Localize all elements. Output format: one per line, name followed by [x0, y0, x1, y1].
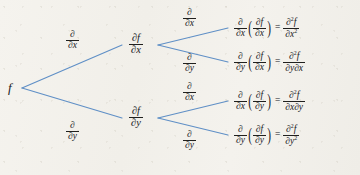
inner-numerator: ∂f [253, 125, 266, 135]
result-denominator: ∂x2 [283, 28, 299, 40]
outer-operator-numerator: ∂ [234, 125, 247, 135]
node-denominator: ∂x [129, 44, 143, 56]
edge-label-numerator: ∂ [183, 82, 196, 92]
result-denominator: ∂y∂x [283, 62, 305, 74]
equals-sign: = [272, 57, 283, 67]
paren-close: ) [267, 54, 271, 71]
paren-close: ) [267, 93, 271, 110]
outer-operator-numerator: ∂ [234, 52, 247, 62]
outer-operator-numerator: ∂ [234, 18, 247, 28]
edge-label-denominator: ∂y [183, 63, 196, 74]
edge-root-to-fx [22, 45, 122, 88]
result-numerator: ∂2f [283, 90, 305, 101]
edge-label-d-dx-branch2: ∂ ∂x [183, 82, 196, 102]
outer-operator-denominator: ∂y [234, 62, 247, 73]
result-denominator: ∂y2 [283, 135, 299, 147]
paren-close: ) [267, 127, 271, 144]
edge-label-numerator: ∂ [183, 53, 196, 63]
paren-open: ( [248, 93, 252, 110]
inner-denominator: ∂y [253, 101, 266, 112]
edge-label-numerator: ∂ [66, 121, 79, 131]
result-expression-fxx: ∂ ∂x ( ∂f ∂x ) = ∂2f ∂x2 [234, 17, 299, 39]
root-node-f: f [8, 81, 12, 94]
root-label: f [8, 80, 12, 95]
result-denominator: ∂x∂y [283, 101, 305, 113]
edge-label-denominator: ∂x [183, 18, 196, 29]
edge-label-numerator: ∂ [66, 30, 79, 40]
diagram-canvas: f ∂ ∂x ∂ ∂y ∂f ∂x ∂f ∂y ∂ ∂x ∂ [0, 0, 360, 175]
paren-open: ( [248, 54, 252, 71]
edge-label-d-dy-level1: ∂ ∂y [66, 121, 79, 141]
edge-label-numerator: ∂ [183, 130, 196, 140]
node-denominator: ∂y [129, 117, 143, 129]
edge-label-denominator: ∂y [66, 131, 79, 142]
result-numerator: ∂2f [283, 17, 299, 28]
edge-label-d-dx-level1: ∂ ∂x [66, 30, 79, 50]
edge-fx-to-fxx [158, 28, 228, 45]
inner-denominator: ∂x [253, 62, 266, 73]
edge-label-d-dy-branch1: ∂ ∂y [183, 53, 196, 73]
node-numerator: ∂f [129, 106, 143, 117]
node-df-dy: ∂f ∂y [129, 106, 143, 128]
outer-operator-denominator: ∂y [234, 135, 247, 146]
equals-sign: = [272, 23, 283, 33]
paren-open: ( [248, 127, 252, 144]
result-numerator: ∂2f [283, 124, 299, 135]
paren-close: ) [267, 20, 271, 37]
edge-label-numerator: ∂ [183, 8, 196, 18]
edge-label-denominator: ∂x [66, 40, 79, 51]
tree-edges [0, 0, 360, 175]
equals-sign: = [272, 96, 283, 106]
inner-denominator: ∂y [253, 135, 266, 146]
inner-numerator: ∂f [253, 52, 266, 62]
inner-numerator: ∂f [253, 18, 266, 28]
outer-operator-denominator: ∂x [234, 101, 247, 112]
edge-label-d-dx-branch1: ∂ ∂x [183, 8, 196, 28]
edge-root-to-fy [22, 88, 122, 118]
edge-label-denominator: ∂x [183, 92, 196, 103]
inner-numerator: ∂f [253, 91, 266, 101]
result-expression-fyy: ∂ ∂y ( ∂f ∂y ) = ∂2f ∂y2 [234, 124, 299, 146]
outer-operator-numerator: ∂ [234, 91, 247, 101]
edge-fy-to-fyx [158, 101, 228, 118]
edge-label-d-dy-branch2: ∂ ∂y [183, 130, 196, 150]
result-numerator: ∂2f [283, 51, 305, 62]
paren-open: ( [248, 20, 252, 37]
result-expression-fyx: ∂ ∂y ( ∂f ∂x ) = ∂2f ∂y∂x [234, 51, 305, 73]
inner-denominator: ∂x [253, 28, 266, 39]
node-df-dx: ∂f ∂x [129, 33, 143, 55]
node-numerator: ∂f [129, 33, 143, 44]
equals-sign: = [272, 130, 283, 140]
edge-label-denominator: ∂y [183, 140, 196, 151]
result-expression-fxy: ∂ ∂x ( ∂f ∂y ) = ∂2f ∂x∂y [234, 90, 305, 112]
outer-operator-denominator: ∂x [234, 28, 247, 39]
